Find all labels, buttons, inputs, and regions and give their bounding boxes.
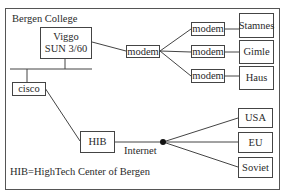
diagram-caption: HIB=HighTech Center of Bergen — [10, 166, 150, 178]
node-soviet: Soviet — [238, 157, 273, 178]
node-eu: EU — [238, 132, 273, 153]
node-cisco: cisco — [12, 82, 46, 96]
node-viggo: Viggo SUN 3/60 — [40, 27, 92, 59]
node-viggo-model: SUN 3/60 — [45, 43, 87, 55]
node-usa: USA — [238, 108, 273, 128]
node-modem-haus: modem — [191, 69, 225, 83]
node-hib: HIB — [80, 131, 115, 153]
node-haus: Haus — [239, 66, 274, 90]
node-modem-central: modem — [126, 45, 160, 58]
node-modem-gimle: modem — [191, 45, 225, 58]
node-viggo-name: Viggo — [53, 31, 79, 43]
node-modem-stamnes: modem — [191, 22, 225, 36]
node-stamnes: Stamnes — [239, 13, 274, 38]
internet-label: Internet — [124, 145, 157, 157]
diagram-title: Bergen College — [12, 13, 77, 25]
node-gimle: Gimle — [239, 40, 274, 64]
